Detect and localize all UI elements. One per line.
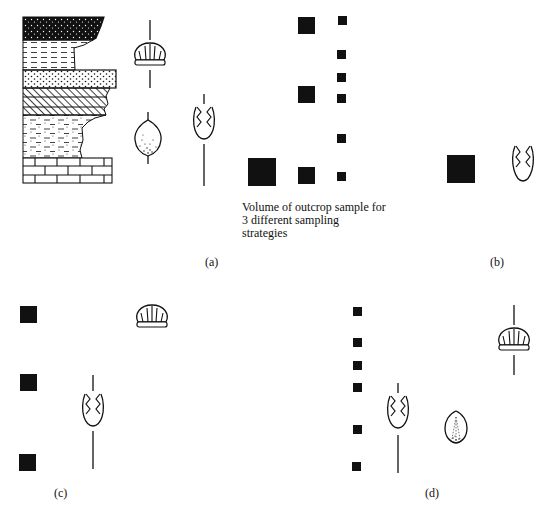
- sample-square-small: [338, 16, 347, 25]
- sample-square-small: [337, 134, 346, 143]
- stratigraphic-log: [0, 0, 130, 200]
- panel-label-a: (a): [205, 255, 218, 270]
- scallop-fossil-icon: [494, 303, 534, 377]
- sample-square-small: [353, 425, 362, 434]
- sample-square-medium: [20, 306, 37, 323]
- sample-square-medium: [19, 454, 36, 471]
- caption: Volume of outcrop sample for 3 different…: [242, 201, 442, 240]
- graptolite-fossil-icon: [79, 373, 107, 471]
- sample-square-small: [353, 361, 362, 370]
- panel-label-b: (b): [490, 255, 504, 270]
- sample-square-medium: [298, 167, 315, 184]
- sample-square-small: [337, 73, 346, 82]
- sample-square-small: [353, 383, 362, 392]
- graptolite-fossil-icon: [510, 143, 536, 187]
- sample-square-large: [248, 158, 276, 186]
- sample-square-small: [353, 338, 362, 347]
- sample-square-medium: [298, 86, 315, 103]
- scallop-fossil-icon: [130, 18, 170, 90]
- brachiopod-fossil-icon: [130, 110, 166, 166]
- sample-square-small: [353, 307, 362, 316]
- scallop-fossil-icon: [132, 300, 172, 332]
- sample-square-small: [337, 50, 346, 59]
- sample-square-small: [337, 94, 346, 103]
- panel-label-c: (c): [54, 486, 67, 501]
- sample-square-small: [337, 172, 346, 181]
- graptolite-fossil-icon: [190, 92, 218, 188]
- brachiopod-fossil-icon: [442, 409, 470, 447]
- caption-line-3: strategies: [242, 227, 442, 240]
- graptolite-fossil-icon: [384, 381, 412, 475]
- sample-square-large: [447, 155, 475, 183]
- panel-label-d: (d): [425, 486, 439, 501]
- sample-square-medium: [298, 17, 315, 34]
- sample-square-small: [352, 462, 361, 471]
- sample-square-medium: [20, 374, 37, 391]
